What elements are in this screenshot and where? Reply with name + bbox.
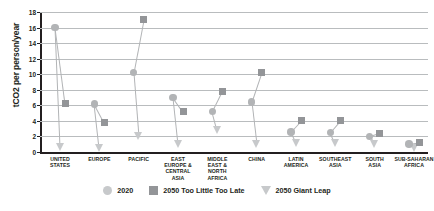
- data-point-giant-leap: [174, 140, 182, 148]
- gridline: [40, 105, 428, 106]
- data-point-giant-leap: [134, 132, 142, 140]
- y-tick-mark: [37, 90, 41, 91]
- data-point-too-little-too-late: [180, 108, 187, 115]
- data-point-too-little-too-late: [376, 130, 383, 137]
- data-point-giant-leap: [370, 140, 378, 148]
- y-axis-title: tCO2 per person/year: [11, 5, 21, 125]
- y-tick-mark: [37, 28, 41, 29]
- data-point-2020: [287, 128, 295, 136]
- y-tick-label: 6: [32, 102, 36, 109]
- x-axis-label: SUB-SAHARANAFRICA: [391, 156, 434, 168]
- plot-area: 024681012141618: [40, 12, 428, 152]
- gridline: [40, 59, 428, 60]
- data-point-2020: [169, 94, 177, 102]
- gridline: [40, 43, 428, 44]
- y-tick-label: 16: [29, 24, 36, 31]
- data-point-2020: [209, 108, 217, 116]
- data-point-2020: [130, 69, 138, 77]
- y-tick-mark: [37, 121, 41, 122]
- data-point-giant-leap: [292, 139, 300, 147]
- y-tick-mark: [37, 12, 41, 13]
- legend-label: 2050 Too Little Too Late: [163, 186, 244, 195]
- y-tick-mark: [37, 59, 41, 60]
- gridline: [40, 121, 428, 122]
- data-point-too-little-too-late: [101, 119, 108, 126]
- data-point-2020: [327, 129, 335, 137]
- data-point-giant-leap: [56, 143, 64, 151]
- y-tick-mark: [37, 105, 41, 106]
- y-tick-label: 12: [29, 55, 36, 62]
- data-point-too-little-too-late: [416, 139, 423, 146]
- y-tick-label: 8: [32, 86, 36, 93]
- y-tick-label: 14: [29, 40, 36, 47]
- gridline: [40, 28, 428, 29]
- circle-marker-icon: [103, 186, 112, 195]
- gridline: [40, 152, 428, 154]
- data-point-2020: [91, 100, 99, 108]
- data-point-too-little-too-late: [62, 100, 69, 107]
- square-marker-icon: [149, 186, 158, 195]
- y-tick-label: 4: [32, 117, 36, 124]
- y-tick-mark: [37, 74, 41, 75]
- y-tick-label: 0: [32, 149, 36, 156]
- gridline: [40, 12, 428, 13]
- data-point-too-little-too-late: [140, 16, 147, 23]
- data-point-too-little-too-late: [337, 117, 344, 124]
- gridline: [40, 90, 428, 91]
- legend-label: 2050 Giant Leap: [276, 186, 331, 195]
- triangle-marker-icon: [261, 186, 271, 195]
- legend-item[interactable]: 2050 Too Little Too Late: [149, 186, 244, 195]
- y-axis-line: [40, 12, 42, 152]
- data-point-too-little-too-late: [258, 69, 265, 76]
- gridline: [40, 74, 428, 75]
- y-tick-label: 10: [29, 71, 36, 78]
- y-tick-mark: [37, 152, 41, 153]
- data-point-too-little-too-late: [219, 88, 226, 95]
- y-tick-label: 2: [32, 133, 36, 140]
- y-tick-label: 18: [29, 9, 36, 16]
- data-point-too-little-too-late: [298, 117, 305, 124]
- data-point-2020: [51, 24, 59, 32]
- y-tick-mark: [37, 136, 41, 137]
- data-point-giant-leap: [331, 139, 339, 147]
- data-point-giant-leap: [95, 144, 103, 152]
- legend-item[interactable]: 2050 Giant Leap: [261, 186, 331, 195]
- legend-item[interactable]: 2020: [103, 186, 133, 195]
- emissions-scatter-chart: tCO2 per person/year 024681012141618 UNI…: [0, 0, 434, 211]
- data-point-giant-leap: [213, 126, 221, 134]
- data-point-giant-leap: [252, 140, 260, 148]
- y-tick-mark: [37, 43, 41, 44]
- chart-legend: 20202050 Too Little Too Late2050 Giant L…: [0, 186, 434, 195]
- legend-label: 2020: [117, 186, 133, 195]
- data-point-2020: [405, 140, 413, 148]
- series-connector: [251, 103, 257, 145]
